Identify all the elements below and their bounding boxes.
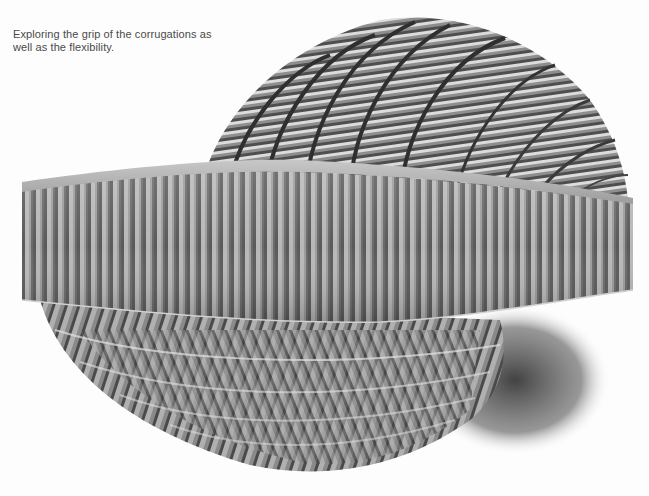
caption-line-1: Exploring the grip of the corrugations a…	[13, 28, 243, 41]
caption-line-2: well as the flexibility.	[13, 41, 243, 54]
sculpture-wrapping-band	[22, 160, 633, 322]
book-page: Exploring the grip of the corrugations a…	[0, 0, 649, 496]
sculpture-lower-dome	[40, 300, 504, 471]
photo-caption: Exploring the grip of the corrugations a…	[13, 28, 243, 54]
corrugated-sculpture-photo	[0, 0, 649, 496]
